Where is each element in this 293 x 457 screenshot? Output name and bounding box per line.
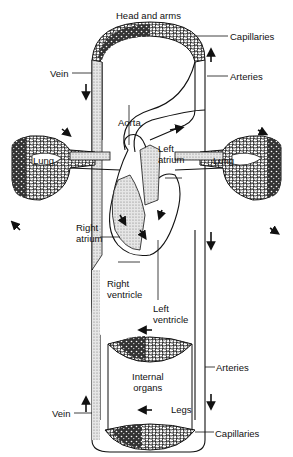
label-arteries-bottom: Arteries xyxy=(216,362,249,373)
vein-lower xyxy=(92,270,100,440)
label-capillaries-top: Capillaries xyxy=(230,31,274,42)
legs-capillary-bed xyxy=(105,424,195,450)
label-arteries-top: Arteries xyxy=(230,71,263,82)
label-head-and-arms: Head and arms xyxy=(116,10,181,21)
label-right-ventricle-line1: Right xyxy=(107,278,142,289)
arrow-diag-icon xyxy=(258,130,264,133)
label-lung-left: Lung xyxy=(33,155,54,166)
label-right-atrium-line1: Right xyxy=(76,222,102,233)
label-left-ventricle: Left ventricle xyxy=(153,303,188,325)
label-left-ventricle-line2: ventricle xyxy=(153,314,188,325)
arrow-right-icon xyxy=(170,128,180,130)
label-right-ventricle-line2: ventricle xyxy=(107,289,142,300)
label-lung-right: Lung xyxy=(213,155,234,166)
label-legs: Legs xyxy=(171,404,192,415)
label-left-ventricle-line1: Left xyxy=(153,303,188,314)
head-capillary-bed xyxy=(92,22,205,62)
label-internal-organs: Internal organs xyxy=(132,371,164,393)
label-internal-organs-line1: Internal xyxy=(132,371,164,382)
label-aorta: Aorta xyxy=(118,117,141,128)
arrow-diag-icon xyxy=(14,224,20,230)
left-lung xyxy=(12,136,95,200)
label-vein-bottom: Vein xyxy=(52,408,71,419)
arrow-diag-icon xyxy=(62,129,68,134)
label-capillaries-bottom: Capillaries xyxy=(215,428,259,439)
right-lung xyxy=(200,136,281,200)
label-internal-organs-line2: organs xyxy=(132,382,164,393)
label-left-atrium-line1: Left xyxy=(158,143,184,154)
arrow-diag-icon xyxy=(270,228,276,232)
label-right-atrium: Right atrium xyxy=(76,222,102,244)
label-left-atrium: Left atrium xyxy=(158,143,184,165)
label-right-ventricle: Right ventricle xyxy=(107,278,142,300)
label-right-atrium-line2: atrium xyxy=(76,233,102,244)
label-vein-top: Vein xyxy=(50,68,69,79)
label-left-atrium-line2: atrium xyxy=(158,154,184,165)
